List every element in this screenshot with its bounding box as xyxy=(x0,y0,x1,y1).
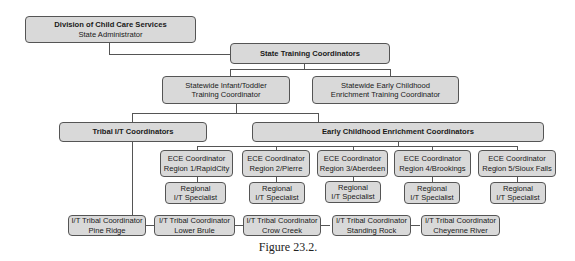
ece-coordinators-label: Early Childhood Enrichment Coordinators xyxy=(322,127,474,136)
infant-toddler-box: Statewide Infant/Toddler Training Coordi… xyxy=(162,76,290,104)
box-line: Region 1/RapidCity xyxy=(164,164,229,173)
box-line: Region 3/Aberdeen xyxy=(320,164,385,173)
box-line: Enrichment Training Coordinator xyxy=(331,90,440,99)
box-line: Standing Rock xyxy=(347,226,396,235)
box-line: Regional xyxy=(503,184,533,193)
tribal-coordinator-cheyenne-river-box: I/T Tribal Coordinator Cheyenne River xyxy=(421,215,500,236)
connector xyxy=(109,54,230,55)
box-line: Regional xyxy=(338,183,368,192)
box-line: Regional xyxy=(181,184,211,193)
box-line: I/T Tribal Coordinator xyxy=(425,216,496,225)
tribal-it-box: Tribal I/T Coordinators xyxy=(59,122,207,142)
figure-caption: Figure 23.2. xyxy=(238,240,338,255)
it-specialist-2-box: Regional I/T Specialist xyxy=(249,182,305,204)
box-line: Region 5/Sioux Falls xyxy=(482,164,552,173)
tribal-coordinator-lower-brule-box: I/T Tribal Coordinator Lower Brule xyxy=(154,215,235,236)
box-line: Region 2/Pierre xyxy=(250,164,303,173)
box-line: Pine Ridge xyxy=(88,226,125,235)
state-training-box: State Training Coordinators xyxy=(230,43,390,64)
box-line: ECE Coordinator xyxy=(247,154,304,163)
box-line: Region 4/Brookings xyxy=(399,164,465,173)
box-line: I/T Tribal Coordinator xyxy=(159,216,230,225)
box-line: I/T Specialist xyxy=(410,193,453,202)
box-line: ECE Coordinator xyxy=(488,154,545,163)
it-specialist-5-box: Regional I/T Specialist xyxy=(490,182,546,204)
state-training-label: State Training Coordinators xyxy=(260,49,360,58)
division-title: Division of Child Care Services xyxy=(54,20,166,29)
box-line: I/T Specialist xyxy=(331,192,374,201)
tribal-coordinator-standing-rock-box: I/T Tribal Coordinator Standing Rock xyxy=(332,215,411,236)
connector xyxy=(390,69,391,76)
box-line: Statewide Infant/Toddler xyxy=(185,81,266,90)
early-childhood-box: Statewide Early Childhood Enrichment Tra… xyxy=(312,76,459,104)
box-line: Statewide Early Childhood xyxy=(341,81,430,90)
it-specialist-3-box: Regional I/T Specialist xyxy=(325,181,381,203)
box-line: I/T Tribal Coordinator xyxy=(246,216,317,225)
connector xyxy=(132,113,318,114)
tribal-it-label: Tribal I/T Coordinators xyxy=(92,127,173,136)
box-line: I/T Specialist xyxy=(255,193,298,202)
box-line: I/T Specialist xyxy=(496,193,539,202)
connector xyxy=(197,146,517,147)
box-line: ECE Coordinator xyxy=(324,154,381,163)
box-line: ECE Coordinator xyxy=(168,154,225,163)
ece-region-4-box: ECE Coordinator Region 4/Brookings xyxy=(394,150,471,177)
connector xyxy=(230,69,231,76)
connector xyxy=(236,103,237,113)
ece-region-5-box: ECE Coordinator Region 5/Sioux Falls xyxy=(478,150,556,177)
connector xyxy=(318,113,319,122)
division-box: Division of Child Care Services State Ad… xyxy=(25,16,196,43)
box-line: I/T Tribal Coordinator xyxy=(71,216,142,225)
box-line: Cheyenne River xyxy=(433,226,487,235)
connector xyxy=(410,225,420,226)
connector xyxy=(132,113,133,122)
box-line: I/T Tribal Coordinator xyxy=(336,216,407,225)
connector xyxy=(230,69,390,70)
tribal-coordinator-pine-ridge-box: I/T Tribal Coordinator Pine Ridge xyxy=(68,215,146,236)
box-line: Lower Brule xyxy=(174,226,215,235)
box-line: Training Coordinator xyxy=(192,90,261,99)
it-specialist-4-box: Regional I/T Specialist xyxy=(404,182,460,204)
ece-coordinators-box: Early Childhood Enrichment Coordinators xyxy=(252,122,544,142)
ece-region-2-box: ECE Coordinator Region 2/Pierre xyxy=(242,150,310,177)
connector xyxy=(109,42,110,54)
division-subtitle: State Administrator xyxy=(78,30,142,39)
box-line: Regional xyxy=(417,184,447,193)
box-line: Crow Creek xyxy=(262,226,302,235)
box-line: ECE Coordinator xyxy=(404,154,461,163)
box-line: I/T Specialist xyxy=(174,193,217,202)
tribal-coordinator-crow-creek-box: I/T Tribal Coordinator Crow Creek xyxy=(243,215,321,236)
box-line: Regional xyxy=(262,184,292,193)
ece-region-1-box: ECE Coordinator Region 1/RapidCity xyxy=(160,150,233,177)
connector xyxy=(132,141,133,215)
it-specialist-1-box: Regional I/T Specialist xyxy=(165,182,226,204)
connector xyxy=(320,225,330,226)
ece-region-3-box: ECE Coordinator Region 3/Aberdeen xyxy=(317,150,388,177)
